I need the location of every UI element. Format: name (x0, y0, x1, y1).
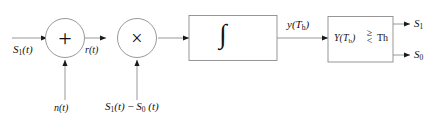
plus-icon: + (51, 26, 79, 50)
integral-expression: ∫ Tb 0 (219, 21, 226, 48)
output-label-s1: S1 (414, 18, 423, 31)
multiply-icon: × (123, 28, 151, 48)
received-signal-label: r(t) (85, 45, 98, 55)
less-than-icon: < (364, 37, 375, 45)
threshold-label: Th (377, 33, 388, 43)
block-diagram-canvas: + × S1(t) r(t) n(t) S1(t) − S0 (t) ∫ Tb … (0, 0, 438, 121)
output-label-s0: S0 (414, 49, 423, 62)
input-signal-label: S1(t) (13, 44, 33, 57)
comparison-operator: ≥ < (364, 29, 375, 45)
noise-label: n(t) (54, 103, 68, 113)
integrator-output-label: y(Tb) (287, 19, 309, 32)
reference-signal-label: S1(t) − S0 (t) (105, 101, 159, 114)
integral-sign: ∫ (219, 19, 226, 49)
decision-variable-label: Y(Tb) (334, 33, 355, 45)
integrator-box (189, 16, 277, 61)
